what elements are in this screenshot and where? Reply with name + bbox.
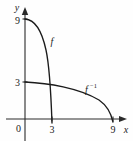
- y-axis-label: y: [14, 2, 20, 13]
- x-axis-arrowhead: [119, 116, 127, 122]
- curve-f-inverse-label-base: f: [85, 84, 89, 95]
- graph-canvas: 9 3 0 3 9 y x f f −1: [0, 0, 133, 141]
- tick-marks-group: [23, 19, 114, 122]
- x-tick-label-9: 9: [111, 124, 116, 135]
- origin-label: 0: [16, 123, 21, 134]
- axes-group: [6, 7, 127, 141]
- y-tick-label-3: 3: [15, 77, 20, 88]
- y-tick-label-9: 9: [15, 15, 20, 26]
- x-tick-label-3: 3: [50, 124, 55, 135]
- function-inverse-graph: 9 3 0 3 9 y x f f −1: [0, 0, 133, 141]
- curve-f-inverse-label-exponent: −1: [90, 82, 97, 89]
- curve-f-inverse: [25, 82, 113, 122]
- curve-f-inverse-label: f −1: [85, 82, 97, 96]
- curve-f: [25, 19, 52, 123]
- x-axis-label: x: [123, 124, 129, 135]
- y-axis-arrowhead: [22, 7, 28, 15]
- curve-f-label: f: [51, 36, 55, 47]
